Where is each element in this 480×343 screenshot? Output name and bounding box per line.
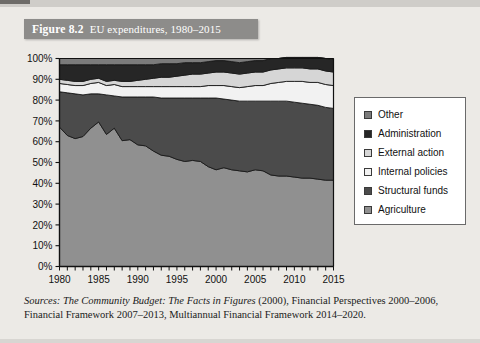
y-tick-label: 20% (32, 220, 52, 231)
legend-item-label: Internal policies (378, 166, 447, 177)
legend-item: Internal policies (364, 162, 465, 181)
y-tick-label: 50% (32, 157, 52, 168)
scan-top-edge (0, 0, 480, 7)
legend-swatch-icon (364, 130, 372, 138)
x-tick-label: 1985 (88, 274, 111, 285)
x-tick-label: 2010 (283, 274, 306, 285)
legend-swatch-icon (364, 111, 372, 119)
source-line1-rest: (2000), Financial Perspectives (258, 295, 385, 306)
source-note: Sources: The Community Budget: The Facts… (24, 294, 458, 321)
y-tick-label: 100% (27, 53, 53, 64)
area-series-group (60, 57, 334, 266)
source-title-italic: The Community Budget: The Facts in Figur… (63, 295, 256, 306)
chart-legend: OtherAdministrationExternal actionIntern… (354, 97, 466, 225)
figure-title: EU expenditures, 1980–2015 (90, 23, 221, 35)
legend-item: Structural funds (364, 181, 465, 200)
legend-item-label: External action (378, 147, 444, 158)
legend-swatch-icon (364, 168, 372, 176)
source-label: Sources: (24, 295, 60, 306)
legend-item-label: Agriculture (378, 204, 426, 215)
legend-item: Administration (364, 124, 465, 143)
x-tick-label: 2005 (244, 274, 267, 285)
y-tick-label: 70% (32, 116, 52, 127)
legend-item-label: Structural funds (378, 185, 448, 196)
legend-item-label: Administration (378, 128, 441, 139)
y-tick-label: 80% (32, 95, 52, 106)
x-tick-label: 2015 (322, 274, 345, 285)
legend-item: External action (364, 143, 465, 162)
source-line3: 2014–2020. (316, 309, 366, 320)
y-tick-label: 40% (32, 178, 52, 189)
bottom-rule (0, 339, 480, 343)
legend-swatch-icon (364, 206, 372, 214)
x-tick-label: 2000 (205, 274, 228, 285)
legend-item-label: Other (378, 109, 403, 120)
y-tick-label: 0% (38, 261, 53, 272)
x-tick-label: 1980 (48, 274, 71, 285)
scan-top-edge-dark (0, 0, 30, 4)
figure-number: Figure 8.2 (32, 23, 84, 35)
y-axis-tick-labels: 0%10%20%30%40%50%60%70%80%90%100% (27, 53, 53, 272)
legend-item: Other (364, 105, 465, 124)
figure-container: Figure 8.2 EU expenditures, 1980–2015 0%… (0, 0, 480, 343)
x-tick-label: 1995 (166, 274, 189, 285)
legend-swatch-icon (364, 187, 372, 195)
y-tick-label: 30% (32, 199, 52, 210)
figure-title-bar: Figure 8.2 EU expenditures, 1980–2015 (24, 19, 258, 39)
y-tick-label: 90% (32, 74, 52, 85)
x-tick-label: 1990 (127, 274, 150, 285)
x-axis-tick-labels: 19801985199019952000200520102015 (48, 274, 345, 285)
y-tick-label: 60% (32, 136, 52, 147)
legend-swatch-icon (364, 149, 372, 157)
y-tick-label: 10% (32, 240, 52, 251)
legend-item: Agriculture (364, 200, 465, 219)
